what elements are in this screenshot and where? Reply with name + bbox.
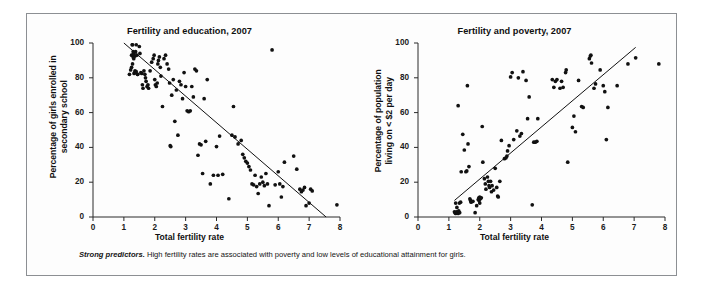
x-axis-title-education: Total fertility rate: [27, 232, 352, 242]
figure-frame: Fertility and education, 2007 Percentage…: [26, 13, 677, 276]
x-tick-label: 4: [208, 223, 226, 232]
y-tick-label: 60: [387, 108, 409, 117]
y-tick-label: 100: [387, 38, 409, 47]
x-tick-label: 2: [146, 223, 164, 232]
x-tick-label: 3: [177, 223, 195, 232]
y-tick-label: 20: [62, 177, 84, 186]
x-tick-label: 4: [533, 223, 551, 232]
y-tick-label: 0: [387, 212, 409, 221]
x-tick-label: 3: [502, 223, 520, 232]
figure-caption: Strong predictors. High fertility rates …: [79, 250, 639, 260]
caption-lead: Strong predictors.: [79, 250, 145, 259]
x-tick-label: 8: [656, 223, 674, 232]
caption-body: High fertility rates are associated with…: [145, 250, 466, 259]
x-tick-label: 1: [115, 223, 133, 232]
x-tick-label: 5: [563, 223, 581, 232]
x-tick-label: 5: [238, 223, 256, 232]
x-tick-label: 7: [625, 223, 643, 232]
chart-panel-fertility-poverty: Fertility and poverty, 2007 Percentage o…: [352, 14, 677, 246]
x-tick-label: 6: [269, 223, 287, 232]
y-tick-label: 20: [387, 177, 409, 186]
x-tick-label: 6: [594, 223, 612, 232]
y-tick-label: 100: [62, 38, 84, 47]
x-tick-label: 1: [440, 223, 458, 232]
x-tick-label: 0: [409, 223, 427, 232]
x-axis-title-poverty: Total fertility rate: [352, 232, 677, 242]
x-tick-label: 0: [84, 223, 102, 232]
y-tick-label: 60: [62, 108, 84, 117]
x-tick-label: 7: [300, 223, 318, 232]
y-tick-label: 40: [62, 142, 84, 151]
y-tick-label: 0: [62, 212, 84, 221]
y-tick-label: 40: [387, 142, 409, 151]
chart-panel-fertility-education: Fertility and education, 2007 Percentage…: [27, 14, 352, 246]
y-tick-label: 80: [387, 73, 409, 82]
x-tick-label: 8: [331, 223, 349, 232]
y-tick-label: 80: [62, 73, 84, 82]
x-tick-label: 2: [471, 223, 489, 232]
